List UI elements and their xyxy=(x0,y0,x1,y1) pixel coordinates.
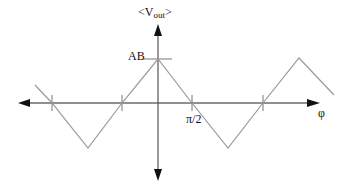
peak-label: AB xyxy=(128,50,145,62)
y-axis-label: <Vout> xyxy=(138,6,172,20)
plot-canvas xyxy=(0,0,351,193)
x-axis-label: φ xyxy=(318,107,325,119)
tick-label-pi-half: π/2 xyxy=(186,113,201,125)
x-axis-left-arrow-icon xyxy=(18,99,30,107)
y-axis-down-arrow-icon xyxy=(154,169,162,181)
y-axis-up-arrow-icon xyxy=(154,24,162,36)
